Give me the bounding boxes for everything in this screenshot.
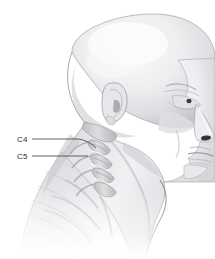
callout-c5-label: C5 bbox=[17, 152, 28, 161]
callout-c4-label: C4 bbox=[17, 135, 28, 144]
anatomical-figure: C4 C5 bbox=[0, 0, 215, 259]
nasolabial-fold bbox=[176, 130, 179, 158]
illustration-canvas: C4 C5 bbox=[0, 0, 215, 259]
left-fade bbox=[0, 150, 50, 259]
scalp-highlight-secondary bbox=[86, 46, 138, 78]
ear bbox=[102, 83, 127, 125]
eye bbox=[186, 99, 191, 103]
